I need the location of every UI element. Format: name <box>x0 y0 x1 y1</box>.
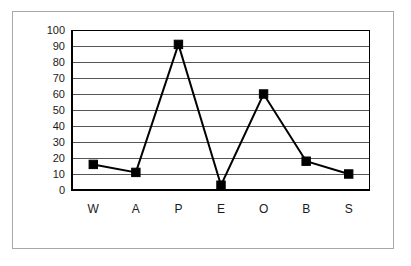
data-point-marker <box>259 90 267 98</box>
x-axis-category-label: B <box>302 202 310 216</box>
data-point-marker <box>302 157 310 165</box>
x-axis-category-label: S <box>345 202 353 216</box>
gridlines <box>72 31 370 175</box>
data-point-marker <box>174 40 182 48</box>
y-axis-tick-label: 20 <box>53 152 65 164</box>
x-axis-category-label: O <box>259 202 268 216</box>
chart-canvas: 1009080706050403020100 WAPEOBS <box>0 0 411 266</box>
figure-root: 1009080706050403020100 WAPEOBS <box>0 0 411 266</box>
x-axis-category-label: P <box>174 202 182 216</box>
line-chart: 1009080706050403020100 WAPEOBS <box>0 0 411 266</box>
data-point-marker <box>217 181 225 189</box>
x-axis-category-labels: WAPEOBS <box>88 202 353 216</box>
x-axis-category-label: W <box>88 202 100 216</box>
y-axis-tick-label: 10 <box>53 168 65 180</box>
x-axis-category-label: A <box>132 202 140 216</box>
y-axis-tick-label: 50 <box>53 104 65 116</box>
y-axis-tick-label: 40 <box>53 120 65 132</box>
y-axis-tick-label: 100 <box>47 24 65 36</box>
y-axis-tick-label: 80 <box>53 56 65 68</box>
y-axis-tick-labels: 1009080706050403020100 <box>47 24 65 196</box>
data-point-marker <box>132 168 140 176</box>
y-axis-tick-label: 60 <box>53 88 65 100</box>
y-axis-tick-label: 30 <box>53 136 65 148</box>
x-axis-category-label: E <box>217 202 225 216</box>
data-point-marker <box>345 170 353 178</box>
y-axis-tick-label: 90 <box>53 40 65 52</box>
y-axis-tick-label: 70 <box>53 72 65 84</box>
y-axis-tick-label: 0 <box>59 184 65 196</box>
data-point-marker <box>89 160 97 168</box>
